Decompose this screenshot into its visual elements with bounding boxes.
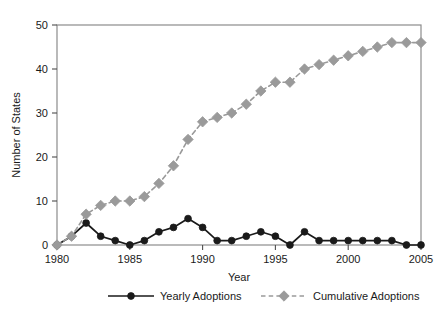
data-point-marker [110, 196, 120, 206]
data-point-marker [183, 134, 193, 144]
data-point-marker [243, 233, 250, 240]
y-tick-label: 50 [36, 19, 48, 31]
chart-canvas: 01020304050198019851990199520002005YearN… [0, 0, 443, 315]
x-axis: 198019851990199520002005 [45, 245, 433, 265]
data-point-marker [299, 64, 309, 74]
data-point-marker [227, 108, 237, 118]
data-point-marker [287, 242, 294, 249]
legend-marker-icon [128, 293, 135, 300]
data-point-marker [359, 237, 366, 244]
data-point-marker [388, 237, 395, 244]
data-point-marker [418, 242, 425, 249]
data-point-marker [170, 224, 177, 231]
x-tick-label: 2005 [409, 253, 433, 265]
data-point-marker [97, 233, 104, 240]
data-point-marker [212, 112, 222, 122]
x-tick-label: 1980 [45, 253, 69, 265]
series-cumulative-adoptions [52, 37, 426, 250]
data-point-marker [301, 228, 308, 235]
legend-item-yearly-adoptions[interactable]: Yearly Adoptions [108, 290, 242, 302]
data-point-marker [112, 237, 119, 244]
data-point-marker [228, 237, 235, 244]
data-point-marker [156, 228, 163, 235]
y-tick-label: 20 [36, 151, 48, 163]
plot-frame [57, 25, 421, 245]
legend-item-cumulative-adoptions[interactable]: Cumulative Adoptions [261, 290, 420, 302]
x-tick-label: 2000 [336, 253, 360, 265]
data-point-marker [270, 77, 280, 87]
data-point-marker [372, 42, 382, 52]
y-tick-label: 40 [36, 63, 48, 75]
x-tick-label: 1995 [263, 253, 287, 265]
data-point-marker [316, 237, 323, 244]
data-point-marker [126, 242, 133, 249]
data-point-marker [358, 46, 368, 56]
data-point-marker [401, 37, 411, 47]
data-point-marker [81, 209, 91, 219]
y-tick-label: 0 [42, 239, 48, 251]
legend-label: Cumulative Adoptions [313, 290, 420, 302]
data-point-marker [185, 215, 192, 222]
x-tick-label: 1985 [118, 253, 142, 265]
y-tick-label: 30 [36, 107, 48, 119]
data-point-marker [416, 37, 426, 47]
data-point-marker [257, 228, 264, 235]
x-axis-title: Year [228, 271, 251, 283]
data-point-marker [272, 233, 279, 240]
data-point-marker [83, 220, 90, 227]
series-yearly-adoptions [54, 215, 425, 248]
data-point-marker [214, 237, 221, 244]
legend-label: Yearly Adoptions [160, 290, 242, 302]
data-point-marker [141, 237, 148, 244]
y-axis: 01020304050 [36, 19, 57, 251]
data-point-marker [314, 59, 324, 69]
x-tick-label: 1990 [190, 253, 214, 265]
data-point-marker [343, 51, 353, 61]
data-point-marker [328, 55, 338, 65]
data-point-marker [345, 237, 352, 244]
chart-legend: Yearly AdoptionsCumulative Adoptions [108, 290, 420, 302]
chart-figure: 01020304050198019851990199520002005YearN… [0, 0, 443, 315]
data-point-marker [387, 37, 397, 47]
data-point-marker [330, 237, 337, 244]
data-point-marker [95, 200, 105, 210]
series-line [57, 43, 421, 245]
data-point-marker [374, 237, 381, 244]
y-axis-title: Number of States [10, 92, 22, 178]
data-point-marker [199, 224, 206, 231]
y-tick-label: 10 [36, 195, 48, 207]
legend-marker-icon [279, 291, 289, 301]
data-point-marker [403, 242, 410, 249]
data-point-marker [52, 240, 62, 250]
data-point-marker [125, 196, 135, 206]
